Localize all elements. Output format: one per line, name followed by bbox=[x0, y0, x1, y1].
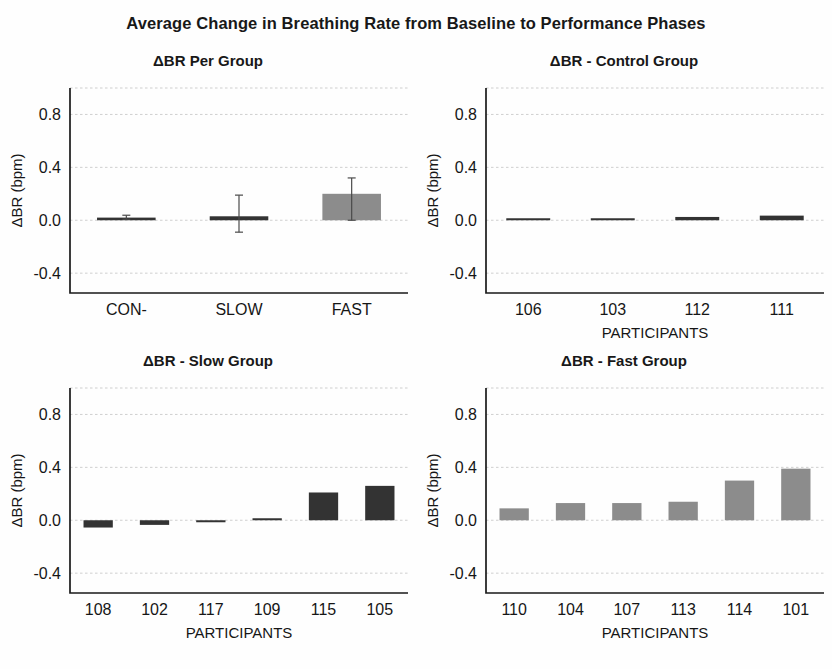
bar bbox=[669, 502, 698, 521]
x-tick-label: 113 bbox=[670, 601, 696, 618]
bar bbox=[309, 492, 338, 520]
y-tick-label: 0.0 bbox=[39, 212, 61, 229]
plot-group-summary: 0.80.40.0-0.4CON-SLOWFASTΔBR (bpm) bbox=[0, 50, 416, 350]
y-tick-label: 0.8 bbox=[39, 406, 61, 423]
bar bbox=[500, 508, 529, 520]
y-tick-label: 0.8 bbox=[455, 106, 477, 123]
y-tick-label: 0.0 bbox=[455, 212, 477, 229]
x-tick-label: 109 bbox=[254, 601, 281, 618]
x-tick-label: 114 bbox=[727, 601, 753, 618]
axis-spine bbox=[486, 88, 824, 293]
x-tick-label: 107 bbox=[613, 601, 640, 618]
y-tick-label: 0.8 bbox=[39, 106, 61, 123]
panel-fast-group: ΔBR - Fast Group 0.80.40.0-0.41101041071… bbox=[416, 350, 832, 650]
x-axis-label: PARTICIPANTS bbox=[186, 624, 293, 641]
figure-title: Average Change in Breathing Rate from Ba… bbox=[0, 14, 832, 33]
bar bbox=[196, 520, 225, 522]
bar bbox=[84, 520, 113, 527]
x-tick-label: 112 bbox=[684, 301, 710, 318]
y-tick-label: 0.8 bbox=[455, 406, 477, 423]
bar bbox=[725, 481, 754, 521]
x-axis-label: PARTICIPANTS bbox=[602, 324, 709, 341]
bar bbox=[253, 518, 282, 520]
y-axis-label: ΔBR (bpm) bbox=[8, 453, 25, 527]
x-tick-label: 104 bbox=[557, 601, 584, 618]
x-tick-label: FAST bbox=[332, 301, 372, 318]
bar bbox=[506, 218, 550, 220]
axis-spine bbox=[70, 388, 408, 593]
y-axis-label: ΔBR (bpm) bbox=[424, 453, 441, 527]
panel-control-group: ΔBR - Control Group 0.80.40.0-0.41061031… bbox=[416, 50, 832, 350]
x-axis-label: PARTICIPANTS bbox=[602, 624, 709, 641]
x-tick-label: 115 bbox=[311, 601, 337, 618]
x-tick-label: CON- bbox=[106, 301, 147, 318]
y-tick-label: 0.4 bbox=[455, 159, 477, 176]
x-tick-label: 110 bbox=[501, 601, 527, 618]
x-tick-label: 102 bbox=[141, 601, 168, 618]
y-tick-label: -0.4 bbox=[33, 265, 61, 282]
x-tick-label: 106 bbox=[515, 301, 542, 318]
panel-slow-group: ΔBR - Slow Group 0.80.40.0-0.41081021171… bbox=[0, 350, 416, 650]
x-tick-label: 117 bbox=[198, 601, 224, 618]
plot-control-group: 0.80.40.0-0.4106103112111ΔBR (bpm)PARTIC… bbox=[416, 50, 832, 350]
y-axis-label: ΔBR (bpm) bbox=[8, 153, 25, 227]
plot-slow-group: 0.80.40.0-0.4108102117109115105ΔBR (bpm)… bbox=[0, 350, 416, 650]
y-axis-label: ΔBR (bpm) bbox=[424, 153, 441, 227]
panel-group-summary: ΔBR Per Group 0.80.40.0-0.4CON-SLOWFASTΔ… bbox=[0, 50, 416, 350]
x-tick-label: 108 bbox=[85, 601, 112, 618]
axis-spine bbox=[70, 88, 408, 293]
y-tick-label: 0.0 bbox=[455, 512, 477, 529]
y-tick-label: -0.4 bbox=[33, 565, 61, 582]
x-tick-label: SLOW bbox=[215, 301, 263, 318]
bar bbox=[556, 503, 585, 520]
figure-canvas: Average Change in Breathing Rate from Ba… bbox=[0, 0, 832, 669]
bar bbox=[675, 217, 719, 220]
x-tick-label: 105 bbox=[366, 601, 393, 618]
plot-fast-group: 0.80.40.0-0.4110104107113114101ΔBR (bpm)… bbox=[416, 350, 832, 650]
y-tick-label: 0.0 bbox=[39, 512, 61, 529]
y-tick-label: -0.4 bbox=[449, 265, 477, 282]
x-tick-label: 103 bbox=[599, 301, 626, 318]
x-tick-label: 101 bbox=[782, 601, 809, 618]
axis-spine bbox=[486, 388, 824, 593]
y-tick-label: 0.4 bbox=[455, 459, 477, 476]
y-tick-label: 0.4 bbox=[39, 459, 61, 476]
bar bbox=[591, 218, 635, 220]
y-tick-label: 0.4 bbox=[39, 159, 61, 176]
bar bbox=[140, 520, 169, 525]
bar bbox=[612, 503, 641, 520]
y-tick-label: -0.4 bbox=[449, 565, 477, 582]
x-tick-label: 111 bbox=[770, 301, 794, 318]
bar bbox=[365, 486, 394, 520]
bar bbox=[760, 216, 804, 221]
bar bbox=[781, 469, 810, 521]
